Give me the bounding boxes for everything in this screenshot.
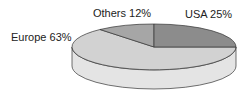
- label-usa: USA 25%: [185, 8, 232, 20]
- label-others: Others 12%: [93, 7, 151, 19]
- slice-usa: [154, 24, 236, 47]
- label-europe: Europe 63%: [11, 31, 72, 43]
